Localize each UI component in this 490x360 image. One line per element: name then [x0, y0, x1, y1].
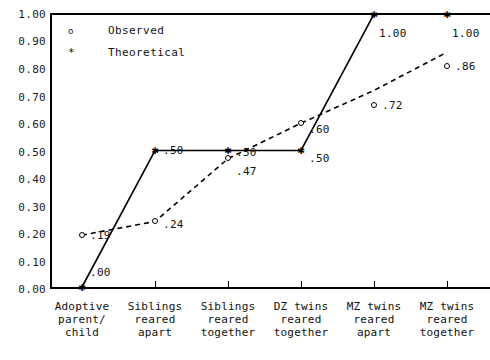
data-label-theoretical: .50: [309, 153, 330, 164]
y-tick-label: 0.90: [2, 36, 46, 47]
data-label-observed: .47: [236, 166, 257, 177]
x-tick: [301, 281, 302, 288]
asterisk-marker-icon: *: [68, 42, 108, 64]
data-label-observed: .24: [163, 219, 184, 230]
x-tick: [374, 281, 375, 288]
data-point-observed: [371, 102, 377, 108]
data-point-theoretical: ✱: [79, 284, 86, 291]
y-tick-label: 0.30: [2, 202, 46, 213]
data-point-theoretical: ✱: [152, 147, 159, 154]
data-point-theoretical: ✱: [225, 147, 232, 154]
data-label-observed: .19: [90, 230, 111, 241]
x-tick: [447, 281, 448, 288]
circle-marker-icon: o: [68, 20, 108, 42]
data-label-observed: .72: [382, 100, 403, 111]
data-point-theoretical: ✱: [371, 11, 378, 18]
axis-line-bottom: [50, 287, 490, 289]
data-point-observed: [225, 155, 231, 161]
x-tick: [228, 281, 229, 288]
legend-label-observed: Observed: [108, 20, 164, 42]
x-axis-label-mz-twins-reared-together: MZ twins reared together: [404, 300, 490, 339]
data-label-observed: .60: [309, 124, 330, 135]
data-point-theoretical: ✱: [444, 11, 451, 18]
data-label-theoretical: 1.00: [379, 28, 407, 39]
legend-label-theoretical: Theoretical: [108, 42, 185, 64]
y-tick-label: 0.50: [2, 147, 46, 158]
chart-screenshot: 1.00 0.90 0.80 0.70 0.60 0.50 0.40 0.30 …: [0, 0, 490, 360]
data-point-theoretical: ✱: [298, 147, 305, 154]
data-label-theoretical: .50: [236, 147, 257, 158]
legend-item-observed: o Observed: [68, 20, 185, 42]
data-label-theoretical: .00: [90, 267, 111, 278]
legend-item-theoretical: * Theoretical: [68, 42, 185, 64]
axis-line-top: [50, 13, 490, 15]
y-tick-label: 0.80: [2, 64, 46, 75]
y-tick-label: 0.10: [2, 257, 46, 268]
y-tick-label: 0.20: [2, 229, 46, 240]
y-tick-label: 0.60: [2, 119, 46, 130]
data-label-theoretical: .50: [163, 145, 184, 156]
x-tick: [155, 281, 156, 288]
legend: o Observed * Theoretical: [68, 20, 185, 64]
data-point-observed: [79, 232, 85, 238]
observed-line: [82, 52, 447, 235]
data-label-theoretical: 1.00: [452, 28, 480, 39]
axis-line-left: [50, 13, 52, 289]
y-tick-label: 1.00: [2, 9, 46, 20]
y-tick-label: 0.40: [2, 174, 46, 185]
data-point-observed: [152, 218, 158, 224]
data-label-observed: .86: [455, 61, 476, 72]
x-tick: [51, 281, 52, 288]
data-point-observed: [298, 120, 304, 126]
y-tick-label: 0.70: [2, 92, 46, 103]
data-point-observed: [444, 63, 450, 69]
y-tick-label: 0.00: [2, 284, 46, 295]
